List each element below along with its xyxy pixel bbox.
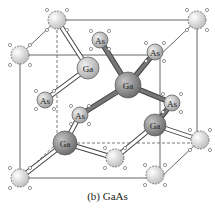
bond-stub [8,63,11,66]
bond-stub [52,107,55,110]
bond-stub [205,8,208,11]
bond-stub [65,28,68,31]
bond-stub [107,29,110,32]
atom-label: Ga [83,64,94,74]
bond-stub [144,41,147,44]
bond-stub [179,110,182,113]
bond-stub [52,89,55,92]
bond-stub [123,166,126,169]
atom-label: As [95,36,105,46]
atom-label: Ga [150,121,161,131]
bond-stub [34,89,37,92]
ga-atom: Ga [144,114,166,136]
ga-atom: Ga [53,131,77,155]
bond-stub [87,122,90,125]
bond-stub [163,183,166,186]
ga_light-atom: Ga [77,57,99,79]
atom-label: Ga [123,81,134,91]
bond-stub [65,8,68,11]
bond-stub [28,166,31,169]
bond-stub [161,92,164,95]
bond-stub [179,92,182,95]
bond-stub [28,63,31,66]
bond-stub [162,41,165,44]
bond-stub [162,59,165,62]
figure-caption: (b) GaAs [0,190,215,202]
bond-stub [107,47,110,50]
atom-sphere [188,11,206,29]
bond-stub [208,148,211,151]
bond-stub [89,47,92,50]
bond-stub [89,29,92,32]
bond-stub [103,166,106,169]
atom-sphere [11,46,29,64]
bond-stub [69,104,72,107]
bond-stub [45,8,48,11]
ga-atom: Ga [115,72,141,98]
atom-sphere [48,11,66,29]
atom-sphere [191,131,209,149]
gaas-crystal-diagram: AsAsAsAsAsGaGaGaGa [0,0,215,211]
bond-stub [143,163,146,166]
atom-sphere [106,149,124,167]
bond-stub [161,110,164,113]
bond-stub [45,28,48,31]
corner-atom [143,163,166,186]
bond-stub [144,59,147,62]
atom-sphere [146,166,164,184]
bond-stub [143,183,146,186]
bond-stub [103,146,106,149]
bond-stub [205,28,208,31]
bond-stub [8,166,11,169]
bond-stub [8,43,11,46]
bond-stub [28,43,31,46]
atom-label: As [167,99,177,109]
atom-label: As [150,48,160,58]
bond-stub [87,104,90,107]
bond-stub [123,146,126,149]
atom-label: Ga [60,139,71,149]
bond-stub [34,107,37,110]
atom-sphere [11,169,29,187]
cube-edge [160,143,197,178]
bond-stub [208,128,211,131]
bond-stub [188,128,191,131]
atom-label: As [40,96,50,106]
bond-stub [185,28,188,31]
atom-label: As [75,111,85,121]
bond-stub [163,163,166,166]
bond-stub [69,122,72,125]
bond-stub [188,148,191,151]
bond-stub [185,8,188,11]
